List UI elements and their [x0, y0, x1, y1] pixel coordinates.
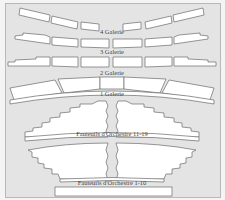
section-3-galerie[interactable]	[15, 33, 208, 48]
label-1-galerie: 1 Galerie	[100, 90, 124, 97]
stage-area	[55, 187, 172, 196]
section-orchestre-1-10[interactable]	[28, 143, 196, 182]
section-2-galerie[interactable]	[8, 57, 216, 67]
label-4-galerie: 4 Galerie	[100, 28, 124, 35]
label-3-galerie: 3 Galerie	[100, 48, 124, 55]
seating-diagram: 4 Galerie 3 Galerie 2 Galerie 1 Galerie …	[0, 0, 225, 200]
label-orchestre-1-10: Fauteuils d'Orchestre 1-10	[78, 179, 147, 186]
label-orchestre-11-19: Fauteuils d'Orchestre 11-19	[76, 130, 148, 137]
label-2-galerie: 2 Galerie	[100, 69, 124, 76]
